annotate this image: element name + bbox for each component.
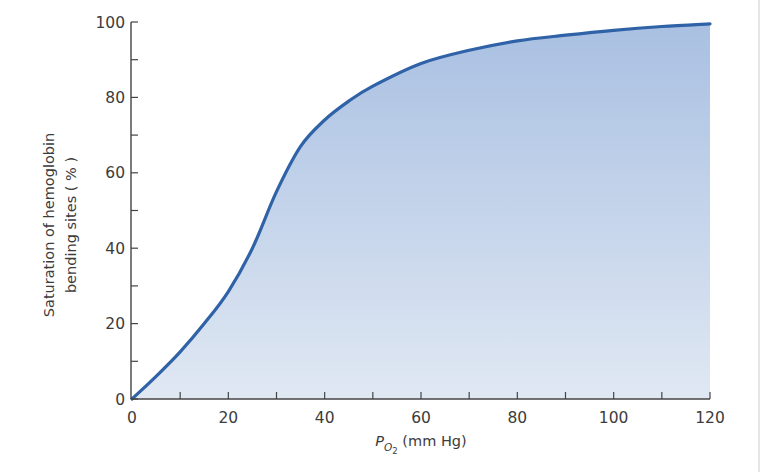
svg-text:PO2 (mm Hg): PO2 (mm Hg) — [375, 433, 466, 456]
x-title-units: (mm Hg) — [398, 433, 467, 449]
x-tick-label: 0 — [127, 409, 137, 427]
saturation-area-fill — [132, 24, 710, 399]
x-axis-title: PO2 (mm Hg) — [375, 433, 466, 456]
x-title-variable: P — [375, 433, 384, 449]
y-axis-title: Saturation of hemoglobin bending sites (… — [41, 133, 79, 317]
x-tick-label: 80 — [507, 409, 527, 427]
y-tick-label: 60 — [105, 164, 125, 182]
y-tick-label: 100 — [95, 14, 125, 32]
y-tick-label: 80 — [105, 89, 125, 107]
x-tick-label: 20 — [218, 409, 238, 427]
y-tick-label: 40 — [105, 240, 125, 258]
x-tick-label: 100 — [599, 409, 629, 427]
oxygen-saturation-chart: 020406080100 020406080100120 Saturation … — [0, 0, 762, 472]
x-tick-label: 40 — [315, 409, 335, 427]
x-tick-label: 120 — [695, 409, 725, 427]
x-tick-label: 60 — [411, 409, 431, 427]
y-tick-label: 20 — [105, 315, 125, 333]
y-axis-title-line-1: Saturation of hemoglobin — [41, 133, 57, 317]
x-title-subscript: O — [384, 441, 392, 453]
y-axis-title-line-2: bending sites ( % ) — [63, 157, 79, 293]
y-tick-label: 0 — [115, 391, 125, 409]
plot-area — [132, 24, 710, 399]
